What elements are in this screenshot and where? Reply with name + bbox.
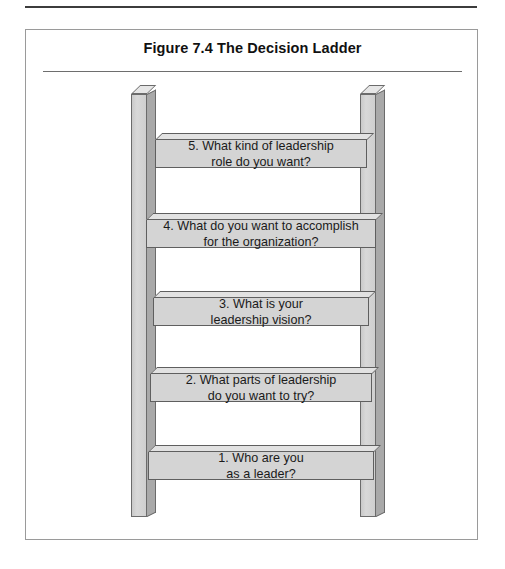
ladder-rung-1-face: 1. Who are you as a leader? xyxy=(148,452,374,480)
ladder-rung-5: 5. What kind of leadership role do you w… xyxy=(155,133,367,168)
ladder-right-rail-side xyxy=(376,90,385,517)
ladder-rung-1: 1. Who are you as a leader? xyxy=(148,445,374,480)
decision-ladder-diagram: 5. What kind of leadership role do you w… xyxy=(26,30,479,541)
ladder-rung-3-label: 3. What is your leadership vision? xyxy=(205,296,318,328)
ladder-rung-5-label: 5. What kind of leadership role do you w… xyxy=(182,138,340,170)
ladder-rung-2-label: 2. What parts of leadership do you want … xyxy=(180,372,343,404)
ladder-rung-4: 4. What do you want to accomplish for th… xyxy=(146,213,376,248)
ladder-rung-3: 3. What is your leadership vision? xyxy=(153,291,369,326)
figure-container: Figure 7.4 The Decision Ladder 5. What k… xyxy=(25,29,478,540)
page-top-rule xyxy=(25,6,477,8)
ladder-left-rail xyxy=(131,94,147,517)
ladder-rung-1-label: 1. Who are you as a leader? xyxy=(212,450,309,482)
ladder-rung-4-label: 4. What do you want to accomplish for th… xyxy=(157,218,364,250)
ladder-rung-5-face: 5. What kind of leadership role do you w… xyxy=(155,140,367,168)
ladder-rung-2-face: 2. What parts of leadership do you want … xyxy=(150,374,372,402)
ladder-rung-4-face: 4. What do you want to accomplish for th… xyxy=(146,220,376,248)
ladder-rung-3-face: 3. What is your leadership vision? xyxy=(153,298,369,326)
ladder-rung-2: 2. What parts of leadership do you want … xyxy=(150,367,372,402)
